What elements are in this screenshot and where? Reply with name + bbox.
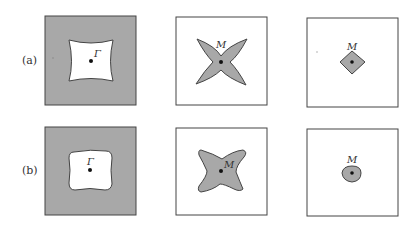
gamma-point-label: Γ	[93, 48, 102, 59]
panel-b-m-star: M	[176, 128, 267, 215]
m-point-label: M	[346, 41, 358, 52]
panel-b-gamma: Γ	[45, 127, 136, 215]
fermi-surface-figure: (a) Γ M M (b) Γ M M	[0, 0, 420, 228]
row-label-a: (a)	[22, 54, 37, 67]
m-point-label: M	[346, 154, 358, 165]
panel-a-m-diamond: M	[307, 18, 398, 107]
panel-b-m-blob: M	[307, 129, 398, 216]
m-point-label: M	[223, 159, 235, 170]
row-label-b: (b)	[22, 164, 38, 177]
m-point-label: M	[215, 39, 227, 50]
panel-a-gamma: Γ	[45, 16, 136, 105]
panel-a-m-star: M	[176, 17, 267, 105]
gamma-point-label: Γ	[86, 156, 95, 167]
